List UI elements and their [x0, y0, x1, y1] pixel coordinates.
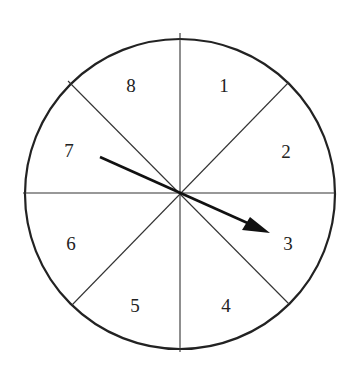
spinner-diagram: 1 2 3 4 5 6 7 8 — [0, 0, 352, 375]
section-label-8: 8 — [126, 75, 136, 96]
section-label-2: 2 — [281, 141, 291, 162]
section-label-4: 4 — [221, 295, 231, 316]
section-label-1: 1 — [219, 75, 229, 96]
section-label-6: 6 — [66, 233, 76, 254]
section-label-7: 7 — [64, 140, 74, 161]
spinner: 1 2 3 4 5 6 7 8 — [23, 33, 335, 352]
section-label-3: 3 — [283, 233, 293, 254]
section-label-5: 5 — [130, 295, 140, 316]
